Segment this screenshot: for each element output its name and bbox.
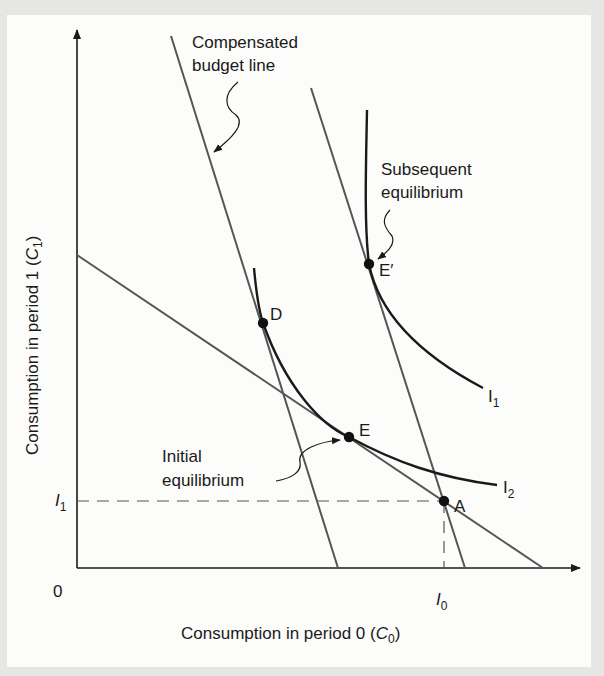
y-tick-i1: I1 [55,491,67,514]
point-d [258,318,268,328]
x-axis-title: Consumption in period 0 (C0) [181,624,400,646]
point-a [439,496,449,506]
point-a-label: A [454,497,466,516]
x-axis-title-text: Consumption in period 0 ( [181,624,376,643]
point-e-prime [364,259,374,269]
compensated-callout-arrow [214,82,239,152]
compensated-annotation-line1: Compensated [192,33,298,52]
point-d-label: D [270,305,282,324]
y-axis-title-close: ) [23,236,42,242]
subsequent-annotation-line1: Subsequent [381,160,472,179]
x-tick-sub: 0 [441,599,448,613]
subsequent-callout-arrow [378,210,393,259]
curve-i2-sub: 2 [508,487,515,501]
y-axis-title: Consumption in period 1 (C1) [23,236,45,455]
curve-i1-sub: 1 [493,396,500,410]
initial-annotation-line1: Initial [162,447,202,466]
y-axis-title-text: Consumption in period 1 ( [23,260,42,455]
point-e-label: E [359,421,370,440]
compensated-annotation-line2: budget line [192,56,275,75]
x-axis-title-var: C [376,624,389,643]
curve-i1-label: I1 [488,387,500,410]
indifference-curve-i1 [366,110,483,388]
point-e [344,432,354,442]
curve-i2-label: I2 [503,478,515,501]
x-tick-i0: I0 [436,590,448,613]
origin-label: 0 [53,582,62,601]
y-axis-title-var: C [23,247,42,260]
intertemporal-choice-diagram: A E D E′ I1 I2 Compensated budget line S… [0,0,604,676]
y-tick-sub: 1 [60,500,67,514]
x-axis-title-close: ) [395,624,401,643]
initial-annotation-line2: equilibrium [162,471,244,490]
initial-budget-line [77,255,543,568]
subsequent-annotation-line2: equilibrium [381,183,463,202]
point-e-prime-label: E′ [379,261,394,280]
